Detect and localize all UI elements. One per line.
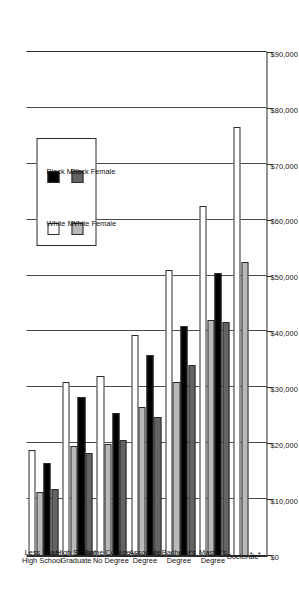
bar-wf-6 xyxy=(241,262,248,556)
legend-label-bf: Black Female xyxy=(71,167,116,176)
bar-wm-1 xyxy=(63,382,70,556)
gridline xyxy=(27,51,267,52)
bar-bm-5 xyxy=(215,273,222,556)
bar-bm-4 xyxy=(181,326,188,556)
axis-tick-label: $50,000 xyxy=(271,273,296,282)
axis-tick-label: $20,000 xyxy=(271,441,296,450)
bar-wm-3 xyxy=(131,335,138,556)
axis-tick-label: $10,000 xyxy=(271,497,296,506)
bar-bf-5 xyxy=(222,322,229,556)
category-label-6: Doctorate xyxy=(210,553,276,561)
legend: White MaleWhite FemaleBlack MaleBlack Fe… xyxy=(37,138,97,246)
axis-tick-label: $30,000 xyxy=(271,385,296,394)
bar-wm-4 xyxy=(165,270,172,556)
axis-tick-label: $80,000 xyxy=(271,106,296,115)
chart-figure: $90,000$80,000$70,000$60,000$50,000$40,0… xyxy=(13,0,296,598)
bar-bm-3 xyxy=(146,355,153,556)
bar-bf-1 xyxy=(86,453,93,556)
bar-wm-6 xyxy=(234,127,241,556)
bar-wf-2 xyxy=(105,444,112,556)
legend-items: White MaleWhite FemaleBlack MaleBlack Fe… xyxy=(38,137,98,245)
bar-bf-4 xyxy=(188,365,195,556)
bar-wf-5 xyxy=(207,320,214,556)
legend-label-wf: White Female xyxy=(71,219,117,228)
category-label-line: Doctorate xyxy=(210,553,276,561)
bar-wf-0 xyxy=(36,492,43,556)
bar-wm-0 xyxy=(29,450,36,556)
axis-tick-label: $40,000 xyxy=(271,329,296,338)
axis-tick-label: $70,000 xyxy=(271,162,296,171)
axis-tick-label: $60,000 xyxy=(271,217,296,226)
gridline xyxy=(27,107,267,108)
bar-bf-2 xyxy=(120,440,127,556)
axis-tick-label: $90,000 xyxy=(271,50,296,59)
gridline xyxy=(27,330,267,331)
category-axis-line xyxy=(267,52,268,556)
bar-wf-3 xyxy=(139,407,146,556)
bar-bf-0 xyxy=(51,490,58,557)
bar-wf-1 xyxy=(70,446,77,556)
bar-bm-1 xyxy=(78,397,85,556)
gridline xyxy=(27,275,267,276)
bar-bm-0 xyxy=(44,463,51,556)
bar-wm-5 xyxy=(200,206,207,556)
bar-bf-3 xyxy=(154,417,161,556)
chart-figure-rotated: $90,000$80,000$70,000$60,000$50,000$40,0… xyxy=(13,0,296,598)
bar-wm-2 xyxy=(97,376,104,556)
bar-wf-4 xyxy=(173,382,180,556)
bar-bm-2 xyxy=(112,413,119,556)
